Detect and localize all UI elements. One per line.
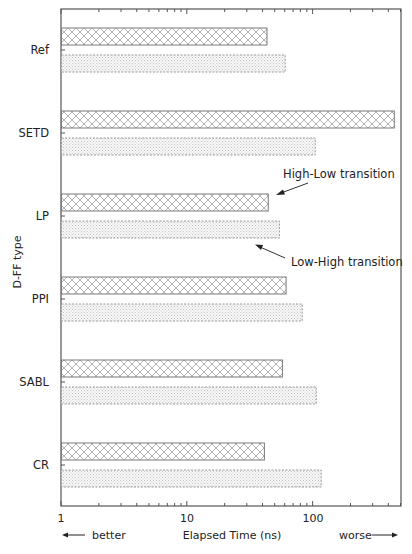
category-label-cr: CR — [33, 458, 49, 472]
category-label-sabl: SABL — [19, 375, 49, 389]
bar-ref-high-low — [62, 28, 267, 45]
bar-sabl-low-high — [62, 387, 317, 404]
better-arrow-icon — [62, 533, 85, 538]
bar-setd-low-high — [62, 138, 316, 155]
bar-sabl-high-low — [62, 360, 283, 377]
better-label: better — [92, 529, 126, 542]
category-label-ppi: PPI — [32, 292, 49, 306]
x-tick-label-10: 10 — [180, 512, 194, 525]
bar-setd-high-low — [62, 111, 395, 128]
annotation-arrow-high-low-icon — [276, 183, 308, 195]
bar-ref-low-high — [62, 55, 286, 72]
bar-ppi-low-high — [62, 304, 303, 321]
category-label-ref: Ref — [30, 43, 50, 57]
x-axis-label: Elapsed Time (ns) — [183, 529, 281, 542]
x-tick-label-1: 1 — [58, 512, 65, 525]
bar-cr-low-high — [62, 470, 322, 487]
annotation-arrow-low-high-icon — [255, 245, 285, 259]
bar-cr-high-low — [62, 443, 265, 460]
bar-ppi-high-low — [62, 277, 287, 294]
bar-chart: 1 10 100 Ref SETD LP PPI SABL CR D-FF ty… — [0, 0, 412, 554]
x-tick-label-100: 100 — [303, 512, 324, 525]
bar-lp-high-low — [62, 194, 269, 211]
annotation-low-high: Low-High transition — [291, 255, 403, 269]
annotation-high-low: High-Low transition — [283, 167, 395, 181]
worse-arrow-icon — [372, 533, 398, 538]
category-label-lp: LP — [36, 209, 49, 223]
worse-label: worse — [339, 529, 372, 542]
bar-lp-low-high — [62, 221, 280, 238]
y-axis-label: D-FF type — [11, 235, 24, 288]
category-label-setd: SETD — [19, 126, 50, 140]
